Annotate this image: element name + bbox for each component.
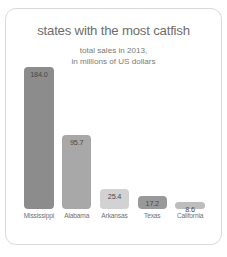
bar-group: 184.0Mississippi <box>20 67 58 209</box>
chart-subtitle-line-2: in millions of US dollars <box>6 56 221 67</box>
bar-group: 25.4Arkansas <box>96 67 134 209</box>
chart-card: states with the most catfish total sales… <box>5 8 222 245</box>
bar-value-label: 17.2 <box>138 199 167 208</box>
bar-group: 95.7Alabama <box>58 67 96 209</box>
bar-arkansas[interactable]: 25.4 <box>100 189 129 209</box>
chart-title: states with the most catfish <box>6 23 221 38</box>
category-label-california: California <box>167 212 213 219</box>
bar-alabama[interactable]: 95.7 <box>62 135 91 209</box>
bar-value-label: 184.0 <box>24 70 53 79</box>
bar-mississippi[interactable]: 184.0 <box>24 67 53 209</box>
bar-group: 17.2Texas <box>133 67 171 209</box>
bar-group: 8.6California <box>171 67 209 209</box>
bar-chart-plot-area: 184.0Mississippi95.7Alabama25.4Arkansas1… <box>20 67 209 209</box>
bar-value-label: 95.7 <box>62 138 91 147</box>
bar-california[interactable]: 8.6 <box>175 202 204 209</box>
chart-subtitle: total sales in 2013, in millions of US d… <box>6 45 221 67</box>
chart-subtitle-line-1: total sales in 2013, <box>6 45 221 56</box>
bar-texas[interactable]: 17.2 <box>138 196 167 209</box>
bar-value-label: 25.4 <box>100 192 129 201</box>
